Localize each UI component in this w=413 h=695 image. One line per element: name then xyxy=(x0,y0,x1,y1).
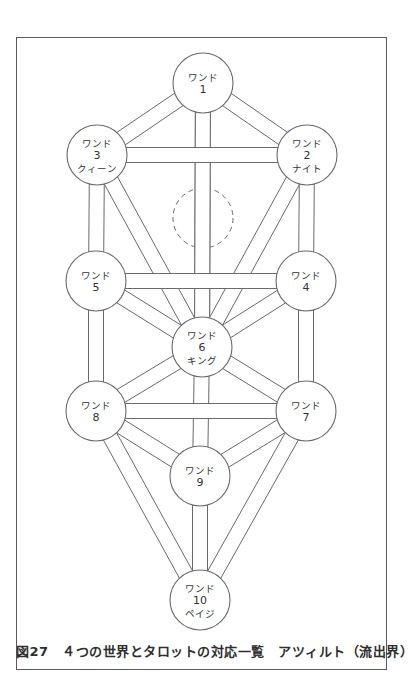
node-4: ワンド4 xyxy=(276,251,336,311)
node-6: ワンド6キング xyxy=(172,317,232,377)
node-number-label: 9 xyxy=(197,476,204,489)
node-suit-label: ワンド xyxy=(185,583,215,594)
node-number-label: 7 xyxy=(303,411,310,424)
node-suit-label: ワンド xyxy=(291,270,321,281)
node-10: ワンド10ペイジ xyxy=(170,570,230,630)
path-8-7 xyxy=(96,404,306,419)
node-suit-label: ワンド xyxy=(188,72,218,83)
tree-of-life-diagram: ワンド1ワンド2ナイトワンド3クィーンワンド4ワンド5ワンド6キングワンド7ワン… xyxy=(0,0,413,695)
node-court-label: ペイジ xyxy=(185,608,215,619)
node-suit-label: ワンド xyxy=(82,138,112,149)
node-number-label: 8 xyxy=(93,411,100,424)
node-suit-label: ワンド xyxy=(291,400,321,411)
node-number-label: 4 xyxy=(303,281,310,294)
node-number-label: 2 xyxy=(304,149,311,162)
node-suit-label: ワンド xyxy=(81,400,111,411)
node-number-label: 5 xyxy=(93,281,100,294)
node-5: ワンド5 xyxy=(66,251,126,311)
node-3: ワンド3クィーン xyxy=(67,125,127,185)
node-suit-label: ワンド xyxy=(292,138,322,149)
node-court-label: キング xyxy=(187,355,217,366)
node-court-label: クィーン xyxy=(77,163,117,174)
node-suit-label: ワンド xyxy=(185,465,215,476)
node-7: ワンド7 xyxy=(276,381,336,441)
node-number-label: 3 xyxy=(94,149,101,162)
figure-caption: 図27 ４つの世界とタロットの対応一覧 アツィルト（流出界） xyxy=(16,641,387,660)
node-9: ワンド9 xyxy=(170,446,230,506)
path-1-6 xyxy=(195,83,211,347)
path-5-4 xyxy=(96,274,306,289)
node-number-label: 1 xyxy=(200,83,207,96)
node-number-label: 6 xyxy=(199,341,206,354)
node-8: ワンド8 xyxy=(66,381,126,441)
node-suit-label: ワンド xyxy=(187,330,217,341)
node-1: ワンド1 xyxy=(173,53,233,113)
node-suit-label: ワンド xyxy=(81,270,111,281)
path-3-2 xyxy=(97,148,307,163)
figure: ワンド1ワンド2ナイトワンド3クィーンワンド4ワンド5ワンド6キングワンド7ワン… xyxy=(0,0,413,695)
node-court-label: ナイト xyxy=(292,163,322,174)
node-2: ワンド2ナイト xyxy=(277,125,337,185)
node-number-label: 10 xyxy=(193,594,207,607)
